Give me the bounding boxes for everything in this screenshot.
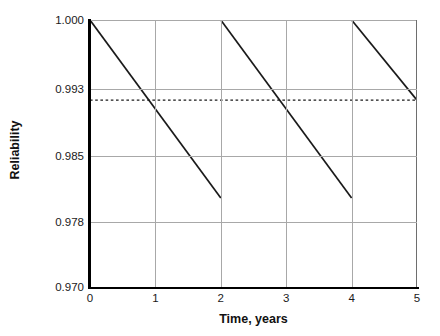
x-tick-label: 1 bbox=[152, 292, 158, 304]
y-tick-label: 0.985 bbox=[24, 150, 84, 162]
x-tick-label: 5 bbox=[414, 292, 420, 304]
y-axis-spine bbox=[88, 19, 91, 288]
gridline-horizontal bbox=[90, 156, 417, 157]
x-axis-spine bbox=[88, 287, 419, 290]
x-axis-title: Time, years bbox=[90, 312, 417, 326]
gridline-vertical bbox=[221, 20, 222, 287]
x-tick-label: 3 bbox=[283, 292, 289, 304]
x-axis-tick-labels: 0 1 2 3 4 5 bbox=[90, 292, 417, 310]
gridline-vertical bbox=[352, 20, 353, 287]
x-tick-label: 0 bbox=[87, 292, 93, 304]
y-tick-label: 0.978 bbox=[24, 216, 84, 228]
gridline-horizontal bbox=[90, 222, 417, 223]
y-axis-title: Reliability bbox=[8, 120, 22, 179]
plot-right-border bbox=[416, 20, 417, 287]
data-series-layer bbox=[90, 20, 417, 287]
gridline-vertical bbox=[155, 20, 156, 287]
y-axis-tick-labels: 1.000 0.993 0.985 0.978 0.970 bbox=[22, 0, 84, 336]
reliability-sawtooth-chart: Reliability 1.000 0.993 0.985 0.978 0.97… bbox=[0, 0, 440, 336]
plot-area bbox=[90, 20, 417, 287]
y-tick-label: 0.993 bbox=[24, 83, 84, 95]
y-tick-label: 0.970 bbox=[24, 281, 84, 293]
reliability-sawtooth-line bbox=[90, 20, 417, 198]
x-tick-label: 4 bbox=[348, 292, 354, 304]
plot-top-border bbox=[90, 20, 417, 21]
x-tick-label: 2 bbox=[218, 292, 224, 304]
gridline-horizontal bbox=[90, 89, 417, 90]
gridline-vertical bbox=[286, 20, 287, 287]
y-tick-label: 1.000 bbox=[24, 14, 84, 26]
